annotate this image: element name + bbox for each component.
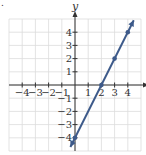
x-axis-arrow-icon <box>143 83 146 88</box>
y-tick-label: −2 <box>57 106 72 117</box>
x-tick-labels: −4−3−2−11234 <box>15 87 131 98</box>
y-tick-label: 4 <box>66 27 72 38</box>
data-point <box>73 136 78 141</box>
x-tick-label: 4 <box>125 87 131 98</box>
y-tick-label: −4 <box>57 132 72 143</box>
y-tick-label: −3 <box>57 119 72 130</box>
y-axis-label: y <box>71 0 79 13</box>
y-tick-label: 2 <box>66 53 72 64</box>
y-tick-label: 3 <box>66 40 72 51</box>
x-tick-label: 1 <box>85 87 91 98</box>
x-tick-label: 3 <box>111 87 117 98</box>
data-point <box>126 30 131 35</box>
data-point <box>99 83 104 88</box>
figure-marker: . <box>1 0 4 8</box>
y-tick-label: 1 <box>66 66 72 77</box>
coordinate-plane: . −4−3−2−11234 4321−1−2−3−4 x y <box>0 0 146 155</box>
y-tick-label: −1 <box>57 93 72 104</box>
data-point <box>112 56 117 61</box>
